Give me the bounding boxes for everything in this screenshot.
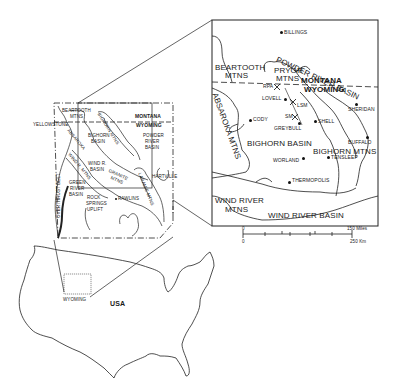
- connector-line-bottom: [165, 190, 378, 226]
- wy-label-rawlins: RAWLINS: [118, 196, 139, 201]
- usa-wyoming-box: [64, 274, 91, 294]
- label-beartooth-line2: MTNS: [225, 72, 248, 81]
- wy-label-rock-1: ROCK: [87, 195, 100, 200]
- connector-line-wy-right: [173, 200, 212, 226]
- wy-label-green-2: RIVER: [70, 186, 84, 191]
- lovell-dot: [284, 98, 287, 101]
- wy-label-rock-3: UPLIFT: [87, 207, 103, 212]
- label-wyoming: WYOMING: [304, 86, 345, 95]
- label-rpa: RPA: [263, 84, 273, 90]
- scale-bar: [243, 230, 352, 238]
- tensleep-dot: [327, 156, 330, 159]
- wy-label-wind-r-basin-2: BASIN: [90, 167, 104, 172]
- scale-250-km: 250 Km: [350, 239, 366, 244]
- label-wind-river-mtns-line2: MTNS: [225, 206, 248, 215]
- label-worland: WORLAND: [273, 158, 299, 164]
- label-lovell: LOVELL: [262, 96, 282, 102]
- wy-label-powder-2: RIVER: [145, 139, 159, 144]
- label-tensleep: TENSLEEP: [331, 155, 358, 161]
- wy-label-montana: MONTANA: [135, 114, 161, 120]
- wy-label-green-3: BASIN: [69, 192, 83, 197]
- connector-line-usa-left: [54, 240, 64, 292]
- wy-label-powder-3: BASIN: [145, 145, 159, 150]
- wy-label-hartville: HARTVILLE: [152, 174, 177, 179]
- cody-dot: [249, 119, 252, 122]
- wy-label-beartooth-2: MTNS: [70, 114, 83, 119]
- label-lsm: LSM: [297, 103, 308, 109]
- connector-line-usa-right: [90, 237, 173, 297]
- label-greybull: GREYBULL: [274, 126, 301, 132]
- label-sm: SM: [285, 114, 293, 120]
- wy-label-overthrust-belt: OVERTHRUST BELT: [56, 173, 61, 218]
- scale-zero-km: 0: [242, 239, 245, 244]
- label-bighorn-basin: BIGHORN BASIN: [247, 140, 312, 149]
- usa-outline: [19, 246, 214, 378]
- worland-dot: [302, 157, 305, 160]
- label-wind-river-basin: WIND RIVER BASIN: [268, 212, 344, 221]
- wy-label-yellowstone: YELLOWSTONE: [33, 122, 68, 127]
- label-shell: SHELL: [318, 119, 334, 125]
- label-cody: CODY: [253, 117, 268, 123]
- connector-line-top: [78, 20, 212, 103]
- wy-label-bighorn-basin-2: BASIN: [91, 139, 105, 144]
- label-buffalo: BUFFALO: [348, 140, 371, 146]
- wy-label-beartooth-1: BEARTOOTH: [62, 108, 91, 113]
- billings-dot: [280, 31, 283, 34]
- shell-dot: [314, 120, 317, 123]
- wy-label-bighorn-basin-1: BIGHORN: [88, 133, 110, 138]
- rpa-mark: [274, 84, 280, 90]
- lsm-mark: [290, 99, 296, 105]
- wy-label-powder-1: POWDER: [143, 133, 164, 138]
- label-sheridan: SHERIDAN: [348, 107, 375, 113]
- usa-label-usa: USA: [110, 301, 125, 307]
- wy-label-rock-2: SPRINGS: [86, 201, 107, 206]
- rawlins-dot: [115, 198, 117, 200]
- scale-zero-miles: 0: [242, 226, 245, 231]
- wy-label-green-1: GREEN: [69, 180, 86, 185]
- label-pryor-line2: MTNS: [276, 75, 299, 84]
- thermopolis-dot: [288, 181, 291, 184]
- usa-label-wyoming: WYOMING: [63, 297, 86, 302]
- wy-label-wyoming: WYOMING: [136, 123, 162, 129]
- label-thermopolis: THERMOPOLIS: [292, 178, 330, 184]
- scale-150-miles: 150 Miles: [347, 226, 367, 231]
- wy-label-wind-r-basin-1: WIND R.: [88, 161, 106, 166]
- label-billings: BILLINGS: [284, 30, 307, 36]
